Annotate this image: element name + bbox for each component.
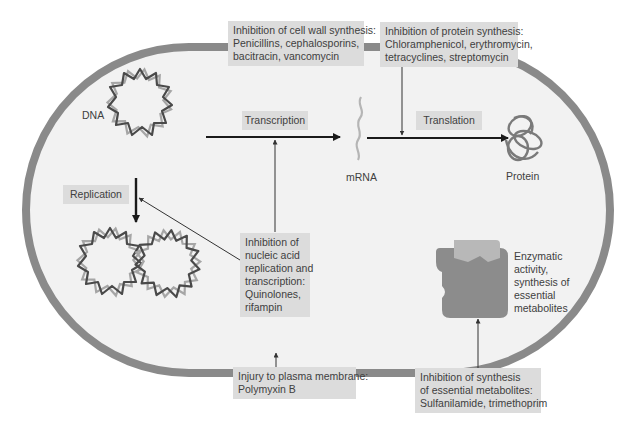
plasma-membrane-injury-box: Injury to plasma membrane: Polymyxin B [233,367,356,399]
cell-wall-inhibition-box: Inhibition of cell wall synthesis: Penic… [228,21,364,66]
protein-label: Protein [506,170,539,183]
nucleic-acid-inhibition-box: Inhibition of nucleic acid replication a… [240,233,310,317]
dna-label: DNA [82,109,104,122]
enzyme-icon [436,240,508,318]
enzyme-label: Enzymatic activity, synthesis of essenti… [514,250,569,315]
metabolite-synthesis-inhibition-box: Inhibition of synthesis of essential met… [415,368,541,413]
translation-box: Translation [416,111,482,130]
protein-synthesis-inhibition-box: Inhibition of protein synthesis: Chloram… [380,22,518,67]
mrna-label: mRNA [346,171,377,184]
transcription-box: Transcription [242,111,308,130]
replication-box: Replication [63,185,129,204]
